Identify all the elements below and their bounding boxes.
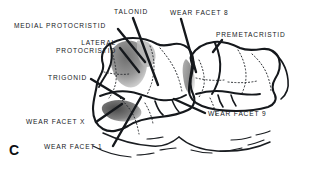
label-wear-facet-9: WEAR FACET 9 [208,110,266,118]
molar2-dotted-crest-d [196,78,224,80]
label-talonid: TALONID [114,8,148,16]
label-medial-protocristid: MEDIAL PROTOCRISTID [14,22,106,30]
label-wear-facet-1: WEAR FACET 1 [44,143,102,151]
label-trigonid: TRIGONID [48,74,87,82]
molar1-dotted-crest-e [145,103,153,124]
molar2-dotted-crest-c [252,54,271,92]
label-lateral-protocristid-line1: LATERAL [81,39,116,46]
label-lateral-protocristid-line2: PROTOCRISTID [56,47,116,54]
gum-dash-7 [256,131,270,135]
molar2-central-crest [196,91,260,95]
molar2-outline [189,42,280,111]
gum-line-main-2 [179,137,270,151]
figure-panel: MEDIAL PROTOCRISTID TALONID WEAR FACET 8… [0,0,311,174]
gum-dash-6 [231,137,251,140]
gum-dash-2 [160,148,176,150]
label-wear-facet-8: WEAR FACET 8 [170,9,228,17]
molar2-dotted-crest-b [238,50,246,93]
label-wear-facet-x: WEAR FACET X [26,118,85,126]
panel-letter: C [9,142,19,158]
gum-dash-8 [147,137,163,139]
label-lateral-protocristid: LATERAL PROTOCRISTID [34,39,116,56]
molar2-notch-b [231,95,236,106]
molar1-dotted-crest-c [160,48,182,92]
molar2-notch-a [218,95,223,107]
gum-dash-1 [137,153,154,155]
molar1-buccal-notch [155,101,163,115]
molar2-dotted-crest-e [228,81,257,83]
label-premetacristid: PREMETACRISTID [216,31,286,39]
gum-dash-5 [248,140,264,145]
